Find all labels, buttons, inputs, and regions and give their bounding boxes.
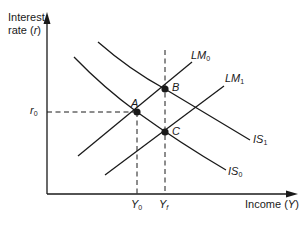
point-c-label: C [172,125,180,137]
x-axis-title: Income (Y) [245,198,299,211]
lm0-curve [78,62,192,156]
y-axis-title-line1: Interest [8,11,45,24]
lm0-label: LM0 [191,49,210,65]
r0-label: r0 [30,104,38,120]
point-b-marker [161,85,168,92]
is-lm-diagram: Interest rate (r) Income (Y) r0 Y0 Yf LM… [0,0,306,226]
point-a-marker [133,108,140,115]
y-axis-title-line2: rate (r) [8,24,45,37]
point-a-label: A [131,97,138,109]
yf-label: Yf [159,198,168,214]
is0-label: IS0 [228,165,242,181]
point-c-marker [161,128,168,135]
point-b-label: B [172,81,179,93]
x-axis-arrow-icon [286,191,298,198]
y-axis-title: Interest rate (r) [8,11,45,37]
is0-curve [74,57,226,170]
diagram-canvas [0,0,306,226]
lm1-label: LM1 [225,72,244,88]
y0-label: Y0 [131,198,142,214]
is1-label: IS1 [253,133,267,149]
